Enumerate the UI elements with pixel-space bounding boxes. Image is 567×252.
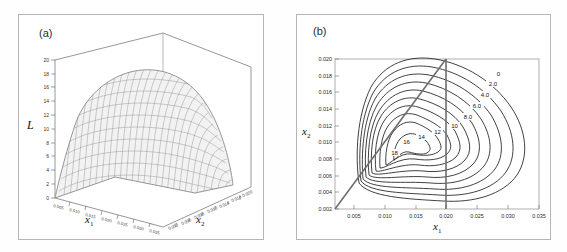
panel-a-z-tick-4: 4	[46, 167, 49, 173]
contour-label-4: 4.0	[481, 92, 490, 98]
panel-b-contour-svg: 0.002 0.004 0.006 0.008 0.010 0.012 0.01…	[297, 15, 550, 239]
panel-a-z-tick-12: 12	[43, 112, 49, 118]
panel-b-x-tick-0010: 0.010	[378, 213, 392, 219]
panel-b-y-tick-0004: 0.004	[319, 189, 333, 195]
panel-a-surface-mesh	[55, 51, 233, 211]
contour-label-14: 14	[418, 134, 425, 140]
panel-b-x-tick-0025: 0.025	[470, 213, 484, 219]
panel-b-y-tick-0014: 0.014	[319, 106, 333, 112]
panel-b-tag: (b)	[313, 25, 326, 37]
contour-label-8: 8.0	[464, 114, 473, 120]
panel-b-y-tick-0016: 0.016	[319, 89, 333, 95]
panel-a-x1-tick-2: 0.010	[69, 207, 81, 215]
panel-a-x1-tick-6: 0.030	[133, 224, 145, 232]
panel-b-y-tick-0010: 0.010	[319, 139, 333, 145]
panel-b-y-tick-0018: 0.018	[319, 73, 333, 79]
panel-b-x-axis-title-sub: 1	[438, 227, 442, 235]
panel-b-x-axis-title: x1	[433, 220, 441, 235]
panel-b-y-axis-title: x2	[302, 125, 310, 140]
panel-a-x1-axis-title: x1	[85, 213, 93, 228]
panel-a-z-tick-16: 16	[43, 84, 49, 90]
contour-label-2: 2.0	[489, 81, 498, 87]
panel-b-y-tick-0008: 0.008	[319, 156, 333, 162]
panel-a-x1-tick-1: 0.005	[53, 203, 65, 211]
panel-b-y-tick-0002: 0.002	[319, 206, 333, 212]
panel-b-x-tick-labels: 0.005 0.010 0.015 0.020 0.025 0.030 0.03…	[347, 213, 546, 219]
contour-label-12: 12	[434, 129, 441, 135]
panel-b-x-tick-0005: 0.005	[347, 213, 361, 219]
panel-a-z-ticks	[51, 60, 55, 198]
panel-b-y-tick-0020: 0.020	[319, 56, 333, 62]
panel-a-z-tick-6: 6	[46, 153, 49, 159]
panel-b-y-tick-0012: 0.012	[319, 123, 333, 129]
contour-label-16: 16	[403, 139, 410, 145]
panel-b-y-axis-title-sub: 2	[307, 132, 311, 140]
contour-label-18: 18	[391, 150, 398, 156]
panel-a-z-tick-18: 18	[43, 71, 49, 77]
panel-b-x-tick-0035: 0.035	[532, 213, 546, 219]
panel-b-contour-plot: (b) x2 x1	[296, 14, 551, 240]
panel-b-x-tick-0020: 0.020	[439, 213, 453, 219]
contour-level-14	[380, 114, 451, 168]
panel-a-tag: (a)	[39, 27, 52, 39]
panel-a-x1-tick-labels: 0.005 0.010 0.015 0.020 0.025 0.030 0.03…	[53, 203, 161, 236]
panel-a-z-axis-title: L	[27, 118, 34, 133]
panel-a-z-tick-10: 10	[43, 126, 49, 132]
panel-a-z-tick-14: 14	[43, 98, 49, 104]
panel-b-y-tick-0006: 0.006	[319, 173, 333, 179]
panel-b-y-ticks	[335, 59, 339, 209]
panel-b-y-tick-labels: 0.002 0.004 0.006 0.008 0.010 0.012 0.01…	[319, 56, 333, 212]
panel-a-z-tick-8: 8	[46, 140, 49, 146]
panel-a-x2-tick-1: 0.002	[167, 222, 179, 231]
panel-a-x2-axis-title: x2	[196, 213, 204, 228]
panel-a-z-tick-20: 20	[43, 57, 49, 63]
figure-container: (a) L x1 x2	[0, 0, 567, 252]
panel-a-surface-plot: (a) L x1 x2	[18, 14, 264, 240]
panel-b-x-tick-0030: 0.030	[501, 213, 515, 219]
contour-label-10: 10	[451, 123, 458, 129]
panel-a-x1-tick-4: 0.020	[101, 216, 113, 224]
panel-a-x1-tick-7: 0.035	[149, 228, 161, 236]
contour-label-6: 6.0	[473, 103, 482, 109]
panel-a-x1-tick-5: 0.025	[117, 220, 129, 228]
panel-a-x2-tick-labels: 0.002 0.006 0.008 0.010 0.014 0.018 0.02…	[167, 189, 253, 231]
panel-a-x1-axis-title-sub: 1	[90, 220, 94, 228]
panel-a-x2-axis-title-sub: 2	[201, 220, 205, 228]
panel-a-surface-svg: 0 2 4 6 8 10 12 14 16 18 20 0.005 0.010 …	[19, 15, 263, 239]
panel-a-z-tick-2: 2	[46, 181, 49, 187]
panel-a-x1-ticks	[69, 202, 150, 227]
panel-a-z-tick-0: 0	[46, 195, 49, 201]
panel-b-x-tick-0015: 0.015	[409, 213, 423, 219]
